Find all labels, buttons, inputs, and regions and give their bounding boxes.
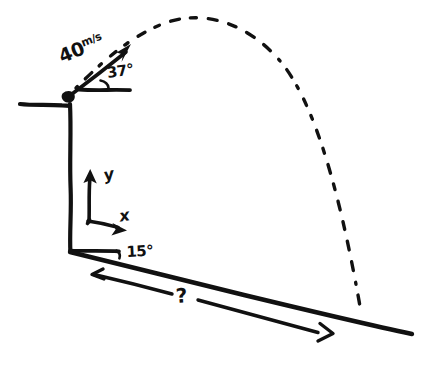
incline-surface-line — [70, 252, 412, 334]
axis-y-line — [89, 180, 90, 222]
cliff-face — [70, 104, 71, 252]
cliff-top-ledge — [20, 104, 70, 106]
range-dimension-line-right — [198, 300, 318, 333]
launch-angle-label: 37° — [106, 62, 135, 81]
horizontal-reference-line — [79, 90, 130, 91]
range-arrow-right-head — [318, 324, 333, 342]
incline-reference-line — [70, 251, 119, 252]
range-dimension-line-left — [94, 275, 172, 295]
unknown-range-label: ? — [175, 285, 188, 306]
axis-origin-joint — [88, 220, 90, 224]
incline-angle-label: 15° — [126, 244, 154, 260]
incline-angle-arc — [117, 251, 120, 259]
projectile-incline-sketch: 40m/s 37° y x 15° ? — [0, 0, 430, 373]
